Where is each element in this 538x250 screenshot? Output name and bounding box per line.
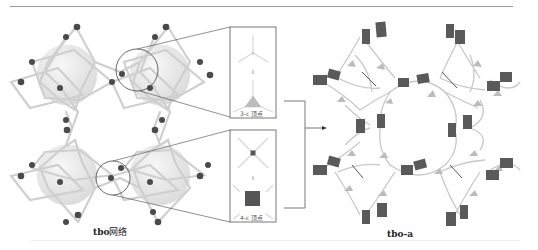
- down-arrow-icon: ⇓: [250, 68, 255, 75]
- square-vertex-icon: [245, 191, 260, 206]
- inset-3c-vertex: ⇓: [230, 27, 276, 118]
- node-icon: [251, 151, 256, 156]
- label-4c-vertex: 4-c 顶点: [240, 213, 263, 222]
- label-3c-vertex: 3-c 顶点: [240, 109, 263, 118]
- caption-tbo-a: tbo-a: [387, 229, 413, 239]
- tbo-diagram: ⇓ ⇓: [0, 0, 538, 250]
- arrow-right-icon: [322, 126, 327, 130]
- down-arrow-icon: ⇓: [250, 174, 255, 181]
- tbo-a-structure: [313, 22, 520, 226]
- caption-tbo-bold: tbo: [93, 227, 109, 237]
- caption-tbo-rest: 网络: [109, 227, 127, 237]
- tbo-net: [11, 24, 230, 226]
- inset-4c-vertex: ⇓: [230, 130, 276, 222]
- square-vertices: [313, 22, 513, 226]
- caption-tbo-net: tbo网络: [93, 225, 127, 238]
- bracket-arrow: [284, 101, 323, 208]
